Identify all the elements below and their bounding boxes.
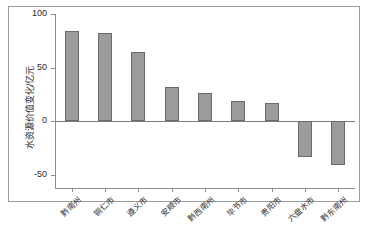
bar	[198, 93, 212, 121]
y-axis-line	[55, 14, 56, 188]
x-tick	[338, 188, 339, 192]
y-tick	[51, 121, 56, 122]
bar	[298, 121, 312, 156]
x-tick	[72, 188, 73, 192]
x-tick	[205, 188, 206, 192]
bar	[331, 121, 345, 165]
y-tick-label: -50	[7, 170, 47, 179]
x-tick	[305, 188, 306, 192]
bar	[65, 31, 79, 121]
x-tick	[172, 188, 173, 192]
y-tick	[51, 175, 56, 176]
bar	[131, 52, 145, 122]
bar	[165, 87, 179, 121]
x-tick	[238, 188, 239, 192]
bar	[231, 101, 245, 121]
x-tick	[272, 188, 273, 192]
y-tick	[51, 14, 56, 15]
y-axis-title: 水资源价值变化/亿元	[23, 38, 36, 178]
bar-chart-figure: 水资源价值变化/亿元 100500-50 黔南州铜仁市遵义市安顺市黔西南州毕节市…	[0, 0, 369, 249]
y-tick	[51, 68, 56, 69]
bar	[98, 33, 112, 121]
y-tick-label: 50	[7, 63, 47, 72]
x-tick	[105, 188, 106, 192]
y-tick-label: 100	[7, 9, 47, 18]
y-tick-label: 0	[7, 116, 47, 125]
bar	[265, 103, 279, 121]
x-tick	[138, 188, 139, 192]
plot-frame	[8, 6, 360, 202]
